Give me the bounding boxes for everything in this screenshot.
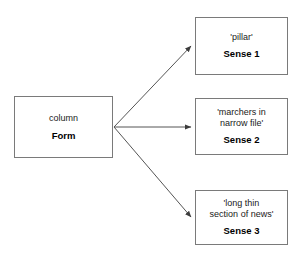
arrow-source-to-sense-1 [114, 46, 191, 127]
sense-2-gloss: 'marchers in narrow file' [217, 107, 266, 129]
diagram-canvas: column Form 'pillar' Sense 1 'marchers i… [0, 0, 300, 258]
sense-1-label: Sense 1 [224, 48, 260, 60]
sense-1-gloss: 'pillar' [230, 32, 252, 43]
arrow-source-to-sense-3 [114, 127, 191, 217]
sense-2-label: Sense 2 [224, 134, 260, 146]
sense-3-gloss: 'long thin section of news' [210, 198, 274, 220]
sense-node-2: 'marchers in narrow file' Sense 2 [195, 98, 288, 155]
source-part-of-speech-label: Form [52, 130, 76, 142]
source-word-label: column [49, 113, 78, 124]
sense-3-label: Sense 3 [224, 225, 260, 237]
source-node-column: column Form [14, 96, 113, 158]
sense-node-3: 'long thin section of news' Sense 3 [195, 190, 288, 245]
sense-node-1: 'pillar' Sense 1 [195, 17, 288, 75]
